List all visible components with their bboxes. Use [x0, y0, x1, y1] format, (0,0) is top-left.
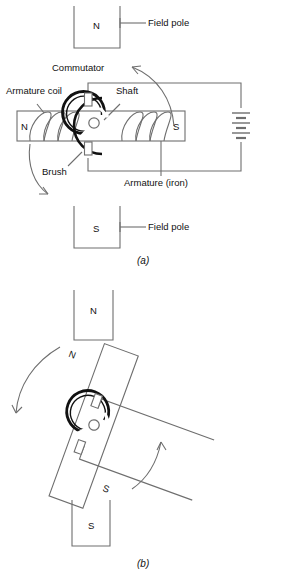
panel-b-graphics	[0, 0, 290, 580]
pole-letter-bottom-field-b: S	[88, 520, 94, 531]
wire-top-b	[98, 399, 214, 449]
figure-canvas: Field pole Commutator Armature coil Shaf…	[0, 0, 290, 580]
commutator-segment-gaps-b	[76, 406, 113, 444]
caption-panel-b: (b)	[137, 558, 149, 569]
wire-bottom-b	[79, 445, 197, 500]
rotation-arrow-b-left	[16, 347, 60, 413]
brush-bottom-b	[74, 440, 85, 455]
shaft-circle-b	[87, 418, 100, 431]
commutator-ring-b	[61, 385, 115, 439]
pole-letter-top-field-b: N	[90, 305, 97, 316]
rotation-arrow-b-right	[132, 442, 161, 489]
armature-bar-rotated	[49, 344, 138, 509]
rotation-arrow-b-right-head	[157, 442, 166, 450]
